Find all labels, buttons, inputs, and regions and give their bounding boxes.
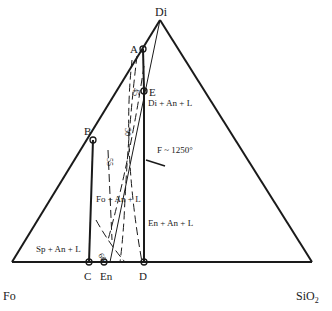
field-label-en-an-l: En + An + L (148, 218, 193, 228)
field-label-fo-an-l: Fo + An + L (96, 194, 141, 204)
isopleth-label-55: 55 (105, 158, 114, 166)
isopleth-label-50: 50 (123, 128, 132, 136)
annotation-F-temperature: F ~ 1250° (157, 145, 193, 155)
point-label-En: En (100, 270, 113, 282)
vertex-label-fo: Fo (3, 289, 16, 303)
field-label-sp-an-l: Sp + An + L (36, 244, 81, 254)
vertex-label-sio2: SiO2 (296, 289, 319, 305)
point-label-E: E (149, 86, 156, 98)
point-label-B: B (84, 125, 91, 137)
ternary-phase-diagram: Di Fo SiO2 A B E C En D F ~ 1250° Di + A… (0, 0, 332, 311)
point-label-C: C (84, 270, 91, 282)
vertex-label-di: Di (155, 5, 168, 19)
point-label-D: D (139, 270, 147, 282)
point-label-A: A (130, 43, 138, 55)
field-label-di-an-l: Di + An + L (148, 98, 192, 108)
isopleth-label-45: 45 (131, 88, 140, 96)
